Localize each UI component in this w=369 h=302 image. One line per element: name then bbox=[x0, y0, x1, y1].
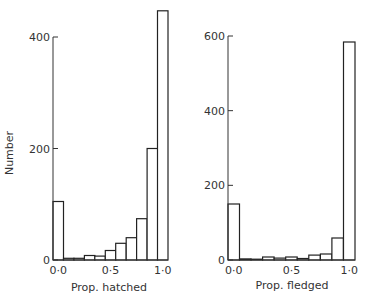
fledged-bar-0.9 bbox=[332, 238, 344, 260]
fledged-bar-1.0 bbox=[344, 42, 356, 260]
hatched-bar-0.7 bbox=[126, 238, 137, 260]
x-tick-label: 1·0 bbox=[154, 264, 172, 277]
y-tick-label: 200 bbox=[204, 179, 225, 192]
hatched-bar-0.3 bbox=[84, 256, 95, 261]
y-tick-label: 200 bbox=[29, 143, 50, 156]
x-tick-label: 0·0 bbox=[225, 264, 243, 277]
hatched-bar-0.8 bbox=[137, 219, 148, 260]
fledged-histogram: 0200400600 0·00·51·0 Prop. fledged bbox=[204, 30, 358, 292]
right-x-ticks: 0·00·51·0 bbox=[225, 264, 358, 277]
left-x-ticks: 0·00·51·0 bbox=[49, 264, 171, 277]
hatched-bar-1.0 bbox=[158, 11, 169, 260]
hatched-bar-0.0 bbox=[53, 202, 64, 261]
y-tick-label: 400 bbox=[204, 105, 225, 118]
hatched-bars bbox=[53, 11, 168, 260]
fledged-bar-0.8 bbox=[320, 254, 332, 260]
hatched-bar-0.9 bbox=[147, 149, 158, 261]
y-tick-label: 600 bbox=[204, 30, 225, 43]
right-x-axis-title: Prop. fledged bbox=[256, 279, 329, 292]
fledged-bars bbox=[228, 42, 355, 260]
hatched-bar-0.5 bbox=[105, 251, 116, 261]
x-tick-label: 1·0 bbox=[340, 264, 358, 277]
left-x-axis-title: Prop. hatched bbox=[71, 281, 147, 294]
y-tick-label: 0 bbox=[218, 254, 225, 267]
fledged-bar-0.7 bbox=[309, 255, 321, 260]
hatched-bar-0.4 bbox=[95, 256, 106, 260]
fledged-bar-0.0 bbox=[228, 204, 240, 260]
x-tick-label: 0·5 bbox=[102, 264, 120, 277]
x-tick-label: 0·5 bbox=[283, 264, 301, 277]
y-tick-label: 400 bbox=[29, 31, 50, 44]
hatched-histogram: 0200400 0·00·51·0 Number Prop. hatched bbox=[3, 11, 172, 294]
left-y-axis-title: Number bbox=[3, 130, 16, 175]
hatched-bar-0.6 bbox=[116, 243, 127, 260]
x-tick-label: 0·0 bbox=[49, 264, 67, 277]
histogram-figure: 0200400 0·00·51·0 Number Prop. hatched 0… bbox=[0, 0, 369, 302]
